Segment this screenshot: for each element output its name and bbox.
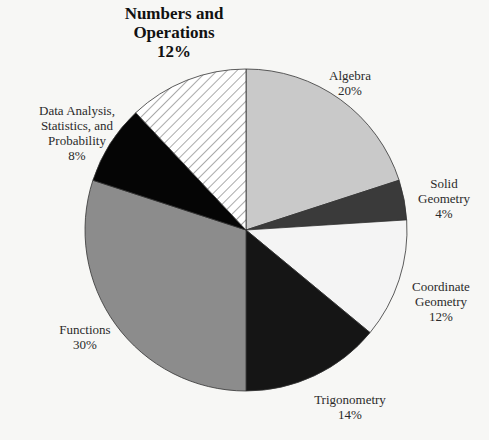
label-line: Functions [45, 322, 125, 337]
label-functions: Functions 30% [45, 322, 125, 352]
label-percent: 20% [320, 83, 380, 98]
label-line: Geometry [396, 294, 486, 309]
label-percent: 4% [404, 206, 484, 221]
label-data-analysis: Data Analysis, Statistics, and Probabili… [22, 103, 132, 163]
label-percent: 12% [104, 42, 244, 61]
label-percent: 8% [22, 148, 132, 163]
label-algebra: Algebra 20% [320, 68, 380, 98]
label-coordinate-geometry: Coordinate Geometry 12% [396, 279, 486, 324]
label-solid-geometry: Solid Geometry 4% [404, 176, 484, 221]
label-line: Trigonometry [300, 392, 400, 407]
label-trigonometry: Trigonometry 14% [300, 392, 400, 422]
label-line: Algebra [320, 68, 380, 83]
label-percent: 12% [396, 309, 486, 324]
label-line: Statistics, and [22, 118, 132, 133]
label-line: Data Analysis, [22, 103, 132, 118]
label-percent: 30% [45, 337, 125, 352]
label-line: Solid [404, 176, 484, 191]
label-percent: 14% [300, 407, 400, 422]
label-line: Numbers and [104, 4, 244, 23]
label-numbers-and-operations: Numbers and Operations 12% [104, 4, 244, 61]
label-line: Probability [22, 133, 132, 148]
label-line: Operations [104, 23, 244, 42]
label-line: Geometry [404, 191, 484, 206]
label-line: Coordinate [396, 279, 486, 294]
